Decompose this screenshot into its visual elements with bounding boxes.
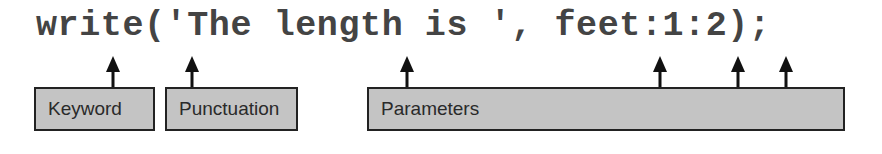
arrow-up-icon xyxy=(731,56,745,89)
punctuation-label: Punctuation xyxy=(179,98,279,120)
keyword-label: Keyword xyxy=(48,98,122,120)
arrow-up-icon xyxy=(400,56,414,89)
parameters-label-box: Parameters xyxy=(367,87,845,131)
punctuation-label-box: Punctuation xyxy=(165,87,298,131)
arrow-up-icon xyxy=(653,56,667,89)
keyword-label-box: Keyword xyxy=(34,87,155,131)
parameters-label: Parameters xyxy=(381,98,479,120)
arrow-up-icon xyxy=(185,56,199,89)
arrow-up-icon xyxy=(106,56,120,89)
arrow-up-icon xyxy=(779,56,793,89)
code-statement: write('The length is ', feet:1:2); xyxy=(36,6,771,46)
